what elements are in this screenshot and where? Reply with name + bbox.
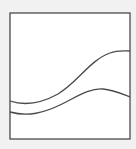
wave-diagram (0, 0, 136, 149)
diagram-frame (10, 13, 130, 139)
diagram-canvas (0, 0, 136, 149)
